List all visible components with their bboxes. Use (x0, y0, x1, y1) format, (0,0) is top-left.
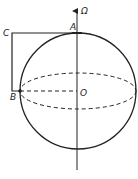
label-A: A (69, 22, 76, 32)
point-A (72, 32, 82, 34)
point-B (18, 89, 22, 93)
label-omega: Ω (80, 6, 88, 16)
sphere-diagram: Ω A C B O (0, 0, 138, 179)
label-O: O (80, 88, 87, 98)
label-C: C (3, 28, 10, 38)
label-B: B (10, 92, 16, 102)
path-ACB (12, 33, 77, 91)
